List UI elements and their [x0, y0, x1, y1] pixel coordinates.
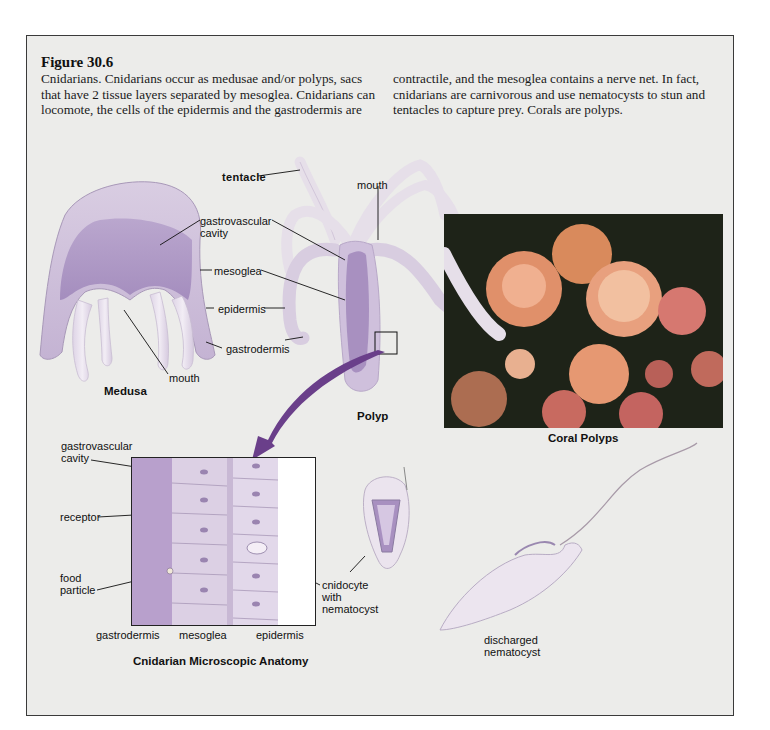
medusa-label-gastrovascular: gastrovascular	[200, 215, 272, 227]
micro-label-epidermis: epidermis	[256, 629, 304, 641]
micro-title: Cnidarian Microscopic Anatomy	[133, 655, 308, 667]
micro-label-cavity: cavity	[61, 452, 89, 464]
medusa-title: Medusa	[104, 385, 147, 397]
medusa-label-mesoglea: mesoglea	[214, 265, 262, 277]
micro-label-with: with	[322, 591, 342, 603]
micro-label-gastrovascular: gastrovascular	[61, 440, 133, 452]
coral-polyps-photo	[444, 214, 723, 428]
micro-label-food: food	[60, 572, 81, 584]
medusa-label-cavity: cavity	[200, 227, 228, 239]
polyp-label-tentacle: tentacle	[222, 171, 266, 183]
discharged-nematocyst-illustration	[440, 443, 697, 630]
medusa-label-mouth: mouth	[169, 372, 200, 384]
coral-polyps-title: Coral Polyps	[548, 432, 618, 444]
micro-label-nematocyst: nematocyst	[322, 603, 378, 615]
medusa-illustration	[40, 182, 215, 381]
micro-label-cnidocyte: cnidocyte	[322, 579, 368, 591]
microscopic-anatomy-panel	[131, 457, 316, 626]
micro-label-particle: particle	[60, 584, 95, 596]
micro-label-mesoglea: mesoglea	[179, 629, 227, 641]
polyp-label-mouth: mouth	[357, 179, 388, 191]
cnidocyte-illustration	[363, 467, 409, 568]
nematocyst-label-discharged: discharged	[484, 634, 538, 646]
medusa-label-gastrodermis: gastrodermis	[226, 343, 290, 355]
micro-label-gastrodermis: gastrodermis	[96, 629, 160, 641]
medusa-label-epidermis: epidermis	[218, 303, 266, 315]
polyp-title: Polyp	[357, 410, 388, 422]
nematocyst-label-nematocyst: nematocyst	[484, 646, 540, 658]
micro-label-receptor: receptor	[60, 511, 100, 523]
